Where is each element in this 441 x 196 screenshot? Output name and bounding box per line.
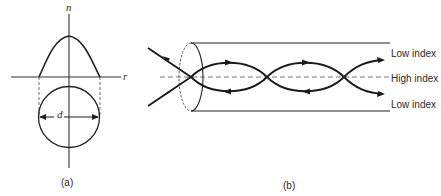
incident-ray-lower bbox=[148, 77, 191, 106]
incident-ray-lower-arrow bbox=[162, 92, 170, 98]
figure-b-graded-index-fiber bbox=[148, 43, 390, 111]
ray-arrow-2 bbox=[223, 89, 231, 95]
label-high-index: High index bbox=[391, 74, 438, 84]
ray-arrow-3 bbox=[302, 60, 310, 66]
ray-arrow-5 bbox=[377, 57, 385, 63]
caption-b: (b) bbox=[283, 181, 295, 191]
label-low-index-bottom: Low index bbox=[391, 100, 436, 110]
diameter-label: d bbox=[56, 109, 64, 120]
figure-a-index-profile bbox=[11, 14, 121, 168]
diagram-canvas bbox=[0, 0, 441, 196]
ray-arrow-4 bbox=[302, 89, 310, 95]
axis-r-label: r bbox=[123, 71, 127, 82]
incident-ray-upper bbox=[148, 48, 191, 77]
caption-a: (a) bbox=[61, 178, 73, 188]
ray-arrow-1 bbox=[225, 60, 233, 66]
label-low-index-top: Low index bbox=[391, 49, 436, 59]
axis-n-label: n bbox=[66, 2, 72, 13]
ray-arrow-6 bbox=[377, 91, 385, 97]
